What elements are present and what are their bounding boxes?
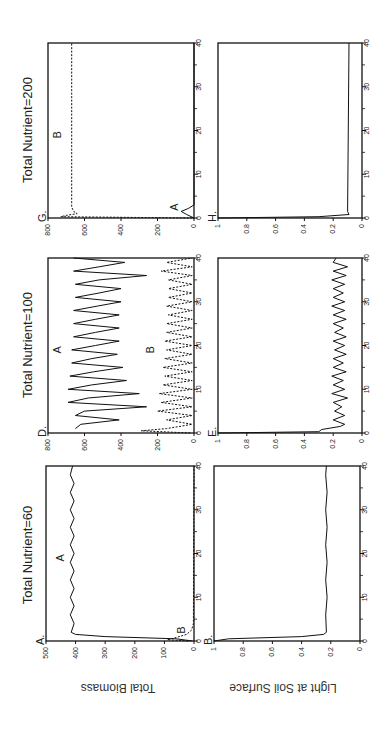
y-axis-label-biomass: Total Biomass: [81, 681, 156, 695]
x-tick-label: 0: [195, 216, 202, 220]
y-tick-label: 0: [358, 439, 365, 443]
y-tick-label: 0.8: [243, 224, 250, 234]
y-tick-label: 0.6: [272, 224, 279, 234]
y-tick-label: 1: [214, 439, 221, 443]
y-tick-label: 1: [210, 647, 217, 651]
x-tick-label: 10: [195, 170, 202, 178]
x-tick-label: 10: [363, 170, 370, 178]
x-tick-label: 20: [361, 550, 368, 558]
x-tick-label: 40: [361, 462, 368, 470]
plot-frame: [218, 258, 362, 433]
x-tick-label: 0: [361, 639, 368, 643]
y-tick-label: 400: [72, 647, 79, 659]
x-tick-label: 0: [195, 639, 202, 643]
y-tick-label: 200: [154, 224, 161, 236]
y-tick-label: 0: [358, 224, 365, 228]
curve-label: B: [51, 131, 63, 138]
y-tick-label: 0.4: [300, 439, 307, 449]
y-tick-label: 800: [44, 224, 51, 236]
series-A: [181, 43, 194, 218]
y-tick-label: 800: [44, 439, 51, 451]
y-tick-label: 400: [117, 224, 124, 236]
y-tick-label: 0.2: [329, 224, 336, 234]
column-title: Total Nutrient=100: [20, 292, 35, 398]
series-A: [68, 258, 147, 429]
y-tick-label: 200: [131, 647, 138, 659]
y-tick-label: 1: [214, 224, 221, 228]
y-tick-label: 0.2: [329, 439, 336, 449]
curve-label: A: [168, 203, 180, 211]
x-tick-label: 30: [195, 506, 202, 514]
figure: 0102030400100200300400500A.ABTotal Nutri…: [0, 0, 391, 747]
panel-G: 0102030400200400600800G.BATotal Nutrient…: [20, 39, 202, 236]
y-tick-label: 0.4: [300, 224, 307, 234]
y-tick-label: 0.6: [268, 647, 275, 657]
y-tick-label: 600: [81, 439, 88, 451]
panel-D: 0102030400200400600800D.ABTotal Nutrient…: [20, 254, 202, 451]
column-title: Total Nutrient=200: [20, 77, 35, 183]
column-title: Total Nutrient=60: [20, 506, 35, 605]
y-tick-label: 0: [190, 439, 197, 443]
panel-letter: D.: [36, 426, 48, 437]
panel-B: 01020304000.20.40.60.81B.: [202, 462, 368, 657]
series-B: [61, 43, 192, 218]
x-tick-label: 20: [195, 127, 202, 135]
panel-letter: H.: [206, 211, 218, 222]
y-tick-label: 0.2: [327, 647, 334, 657]
y-axis-label-light: Light at Soil Surface: [229, 681, 337, 695]
x-tick-label: 40: [195, 462, 202, 470]
x-tick-label: 40: [363, 254, 370, 262]
y-tick-label: 600: [81, 224, 88, 236]
y-tick-label: 0: [190, 224, 197, 228]
panel-letter: A.: [34, 635, 46, 645]
y-tick-label: 0.8: [239, 647, 246, 657]
panel-A: 0102030400100200300400500A.ABTotal Nutri…: [20, 462, 202, 659]
plot-frame: [214, 466, 360, 641]
x-tick-label: 0: [363, 216, 370, 220]
series-light: [218, 258, 348, 433]
x-tick-label: 10: [363, 385, 370, 393]
series-B: [167, 466, 194, 641]
y-tick-label: 0: [190, 647, 197, 651]
y-tick-label: 0.4: [298, 647, 305, 657]
x-tick-label: 30: [363, 83, 370, 91]
plot-frame: [48, 43, 194, 218]
x-tick-label: 40: [363, 39, 370, 47]
y-tick-label: 400: [117, 439, 124, 451]
series-B: [141, 258, 192, 433]
x-tick-label: 40: [195, 39, 202, 47]
x-tick-label: 0: [363, 431, 370, 435]
plot-frame: [46, 466, 194, 641]
x-tick-label: 0: [195, 431, 202, 435]
x-tick-label: 30: [195, 298, 202, 306]
x-tick-label: 30: [361, 506, 368, 514]
x-tick-label: 10: [361, 593, 368, 601]
curve-label: A: [51, 346, 63, 354]
panel-E: 01020304000.20.40.60.81E.: [206, 254, 370, 449]
x-tick-label: 10: [195, 593, 202, 601]
x-tick-label: 30: [195, 83, 202, 91]
series-light: [214, 466, 327, 641]
y-tick-label: 500: [42, 647, 49, 659]
panel-letter: E.: [206, 427, 218, 437]
panel-letter: B.: [202, 635, 214, 645]
y-tick-label: 300: [101, 647, 108, 659]
curve-label: B: [175, 626, 187, 633]
curve-label: A: [54, 554, 66, 562]
x-tick-label: 20: [195, 550, 202, 558]
curve-label: B: [144, 346, 156, 353]
x-tick-label: 30: [363, 298, 370, 306]
y-tick-label: 0: [356, 647, 363, 651]
x-tick-label: 20: [363, 127, 370, 135]
panel-letter: G.: [36, 210, 48, 222]
y-tick-label: 0.6: [272, 439, 279, 449]
x-tick-label: 20: [363, 342, 370, 350]
y-tick-label: 200: [154, 439, 161, 451]
x-tick-label: 20: [195, 342, 202, 350]
plot-frame: [218, 43, 362, 218]
y-tick-label: 100: [160, 647, 167, 659]
plot-frame: [48, 258, 194, 433]
y-tick-label: 0.8: [243, 439, 250, 449]
series-A: [70, 466, 192, 641]
series-light: [218, 43, 349, 218]
